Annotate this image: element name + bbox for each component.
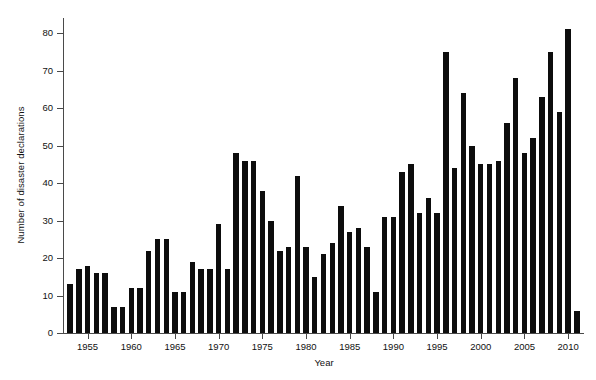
y-tick-label: 70 xyxy=(0,66,53,75)
bar xyxy=(513,78,518,333)
y-tick-mark xyxy=(57,183,63,184)
bar xyxy=(530,138,535,333)
bar xyxy=(251,161,256,334)
bar xyxy=(434,213,439,333)
bar xyxy=(504,123,509,333)
bar xyxy=(198,269,203,333)
x-tick-label: 1955 xyxy=(68,341,108,352)
x-tick-mark xyxy=(568,334,569,339)
x-axis-title: Year xyxy=(64,357,584,368)
bar xyxy=(225,269,230,333)
x-tick-mark xyxy=(437,334,438,339)
bar xyxy=(321,254,326,333)
bar xyxy=(190,262,195,333)
bar xyxy=(347,232,352,333)
bar xyxy=(452,168,457,333)
bar xyxy=(129,288,134,333)
y-tick-label: 50 xyxy=(0,141,53,150)
bar xyxy=(137,288,142,333)
bar xyxy=(487,164,492,333)
bar xyxy=(242,161,247,334)
bar-chart-figure: Number of disaster declarations 01020304… xyxy=(0,0,596,380)
x-tick-mark xyxy=(88,334,89,339)
y-tick-label: 30 xyxy=(0,216,53,225)
bar xyxy=(286,247,291,333)
bar xyxy=(399,172,404,333)
y-tick-mark xyxy=(57,333,63,334)
y-tick-mark xyxy=(57,221,63,222)
y-tick-mark xyxy=(57,258,63,259)
bar xyxy=(443,52,448,333)
x-tick-mark xyxy=(350,334,351,339)
bar xyxy=(461,93,466,333)
bar xyxy=(539,97,544,333)
bar xyxy=(94,273,99,333)
bar xyxy=(277,251,282,334)
y-tick-label: 20 xyxy=(0,253,53,262)
y-tick-label: 10 xyxy=(0,291,53,300)
bar xyxy=(478,164,483,333)
bar xyxy=(111,307,116,333)
bar xyxy=(67,284,72,333)
bar xyxy=(364,247,369,333)
bar xyxy=(216,224,221,333)
bar xyxy=(164,239,169,333)
x-tick-mark xyxy=(175,334,176,339)
x-tick-label: 1980 xyxy=(286,341,326,352)
x-tick-label: 1995 xyxy=(417,341,457,352)
bar xyxy=(338,206,343,334)
y-tick-label: 40 xyxy=(0,178,53,187)
bar xyxy=(120,307,125,333)
x-tick-label: 1985 xyxy=(330,341,370,352)
bars-layer xyxy=(64,18,583,333)
bar xyxy=(408,164,413,333)
y-tick-label: 0 xyxy=(0,328,53,337)
x-axis-spine xyxy=(63,333,584,334)
x-tick-mark xyxy=(393,334,394,339)
bar xyxy=(85,266,90,334)
bar xyxy=(76,269,81,333)
bar xyxy=(330,243,335,333)
x-tick-label: 1960 xyxy=(111,341,151,352)
x-tick-label: 2010 xyxy=(548,341,588,352)
bar xyxy=(522,153,527,333)
bar xyxy=(146,251,151,334)
bar xyxy=(155,239,160,333)
bar xyxy=(496,161,501,334)
x-tick-mark xyxy=(219,334,220,339)
x-tick-mark xyxy=(131,334,132,339)
x-tick-mark xyxy=(481,334,482,339)
bar xyxy=(426,198,431,333)
bar xyxy=(172,292,177,333)
bar xyxy=(181,292,186,333)
y-tick-label: 60 xyxy=(0,103,53,112)
x-tick-mark xyxy=(524,334,525,339)
x-tick-label: 1990 xyxy=(373,341,413,352)
y-tick-label: 80 xyxy=(0,28,53,37)
y-tick-mark xyxy=(57,71,63,72)
bar xyxy=(102,273,107,333)
x-tick-label: 1965 xyxy=(155,341,195,352)
bar xyxy=(268,221,273,334)
x-tick-mark xyxy=(262,334,263,339)
bar xyxy=(382,217,387,333)
bar xyxy=(373,292,378,333)
y-tick-mark xyxy=(57,296,63,297)
bar xyxy=(260,191,265,334)
x-tick-label: 2005 xyxy=(504,341,544,352)
y-tick-mark xyxy=(57,33,63,34)
x-tick-label: 1970 xyxy=(199,341,239,352)
bar xyxy=(233,153,238,333)
x-tick-label: 2000 xyxy=(461,341,501,352)
y-tick-mark xyxy=(57,108,63,109)
bar xyxy=(417,213,422,333)
bar xyxy=(574,311,579,334)
bar xyxy=(312,277,317,333)
bar xyxy=(207,269,212,333)
x-tick-label: 1975 xyxy=(242,341,282,352)
bar xyxy=(548,52,553,333)
bar xyxy=(565,29,570,333)
bar xyxy=(557,112,562,333)
x-tick-mark xyxy=(306,334,307,339)
bar xyxy=(303,247,308,333)
